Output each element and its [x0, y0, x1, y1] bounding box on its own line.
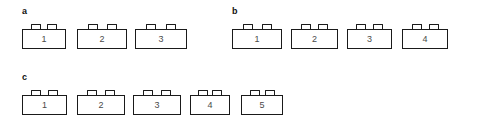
- panel-c: c 1 2: [22, 72, 283, 115]
- panel-a-label: a: [22, 6, 187, 17]
- brick-body: 5: [241, 95, 283, 115]
- panel-c-label: c: [22, 72, 283, 83]
- brick-body: 3: [347, 29, 392, 49]
- panel-b-brick-row: 1 2 3: [232, 24, 448, 49]
- brick-figure: a 1 2: [0, 0, 482, 136]
- brick: 1: [22, 24, 66, 49]
- panel-a-brick-row: 1 2 3: [22, 24, 187, 49]
- brick-body: 2: [77, 29, 127, 49]
- brick-number: 1: [42, 101, 47, 110]
- brick: 5: [241, 90, 283, 115]
- panel-b: b 1 2: [232, 6, 448, 49]
- brick-number: 2: [312, 35, 317, 44]
- panel-c-brick-row: 1 2 3: [22, 90, 283, 115]
- brick-number: 3: [154, 101, 159, 110]
- brick: 4: [190, 90, 230, 115]
- brick-number: 1: [254, 35, 259, 44]
- brick-body: 4: [402, 29, 448, 49]
- brick: 3: [135, 24, 187, 49]
- brick: 2: [77, 24, 127, 49]
- brick: 3: [133, 90, 181, 115]
- brick-body: 2: [291, 29, 338, 49]
- brick-number: 1: [41, 35, 46, 44]
- brick: 3: [347, 24, 392, 49]
- brick-number: 5: [259, 101, 264, 110]
- brick-body: 1: [22, 29, 66, 49]
- panel-a: a 1 2: [22, 6, 187, 49]
- brick-body: 4: [190, 95, 230, 115]
- brick-number: 4: [207, 101, 212, 110]
- brick-body: 1: [232, 29, 282, 49]
- brick-number: 3: [367, 35, 372, 44]
- brick: 4: [402, 24, 448, 49]
- brick-number: 3: [158, 35, 163, 44]
- panel-b-label: b: [232, 6, 448, 17]
- brick-number: 2: [98, 101, 103, 110]
- brick-body: 2: [77, 95, 125, 115]
- brick-body: 3: [133, 95, 181, 115]
- brick-body: 1: [22, 95, 67, 115]
- brick-body: 3: [135, 29, 187, 49]
- brick: 1: [22, 90, 67, 115]
- brick-number: 2: [99, 35, 104, 44]
- brick: 2: [291, 24, 338, 49]
- brick-number: 4: [422, 35, 427, 44]
- brick: 1: [232, 24, 282, 49]
- brick: 2: [77, 90, 125, 115]
